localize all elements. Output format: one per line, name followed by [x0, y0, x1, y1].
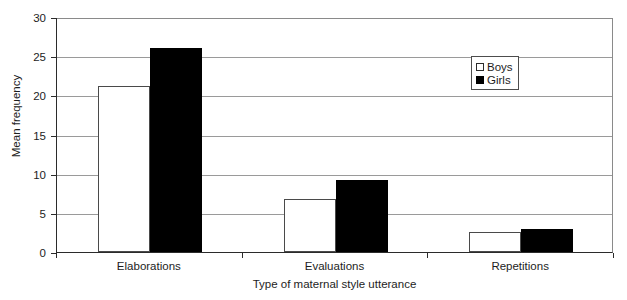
y-tick-label: 30	[8, 12, 46, 24]
plot-area	[56, 18, 613, 253]
bar-girls-elaborations	[150, 48, 202, 252]
y-tick-label: 25	[8, 51, 46, 63]
y-tick-label: 20	[8, 90, 46, 102]
bar-girls-evaluations	[336, 180, 388, 252]
x-tickmark	[56, 253, 57, 258]
legend-label-girls: Girls	[487, 74, 511, 86]
legend-label-boys: Boys	[487, 61, 513, 73]
x-axis-title: Type of maternal style utterance	[56, 278, 613, 290]
chart-legend: Boys Girls	[471, 56, 519, 90]
legend-item-girls: Girls	[476, 73, 513, 86]
bar-boys-repetitions	[469, 232, 521, 252]
y-tick-label: 15	[8, 130, 46, 142]
legend-swatch-girls-icon	[476, 76, 484, 84]
y-tick-label: 0	[8, 247, 46, 259]
x-tickmark	[613, 253, 614, 258]
x-tickmark	[242, 253, 243, 258]
bar-girls-repetitions	[521, 229, 573, 253]
x-tick-label: Evaluations	[242, 259, 428, 273]
gridline	[57, 18, 612, 19]
gridline	[57, 57, 612, 58]
x-axis-tick-labels: ElaborationsEvaluationsRepetitions	[56, 259, 613, 275]
x-tick-label: Repetitions	[427, 259, 613, 273]
y-tick-label: 10	[8, 169, 46, 181]
legend-item-boys: Boys	[476, 60, 513, 73]
x-tick-label: Elaborations	[56, 259, 242, 273]
bar-boys-elaborations	[98, 86, 150, 252]
y-tick-label: 5	[8, 208, 46, 220]
bar-chart-figure: Mean frequency 051015202530 Elaborations…	[0, 0, 627, 300]
bar-boys-evaluations	[284, 199, 336, 252]
legend-swatch-boys-icon	[476, 63, 484, 71]
x-tickmark	[427, 253, 428, 258]
